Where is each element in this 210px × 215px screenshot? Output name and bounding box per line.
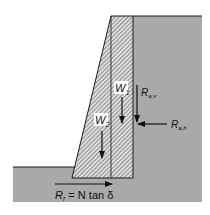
retaining-wall-diagram: W1 W2 Ra,v Ra,h Rr = N tan δ (0, 0, 210, 215)
backfill-soil (133, 16, 202, 202)
